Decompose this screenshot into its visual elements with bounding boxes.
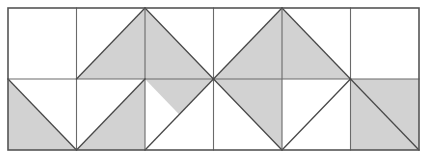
tiling-canvas xyxy=(0,0,426,159)
tiling-figure xyxy=(0,0,426,159)
